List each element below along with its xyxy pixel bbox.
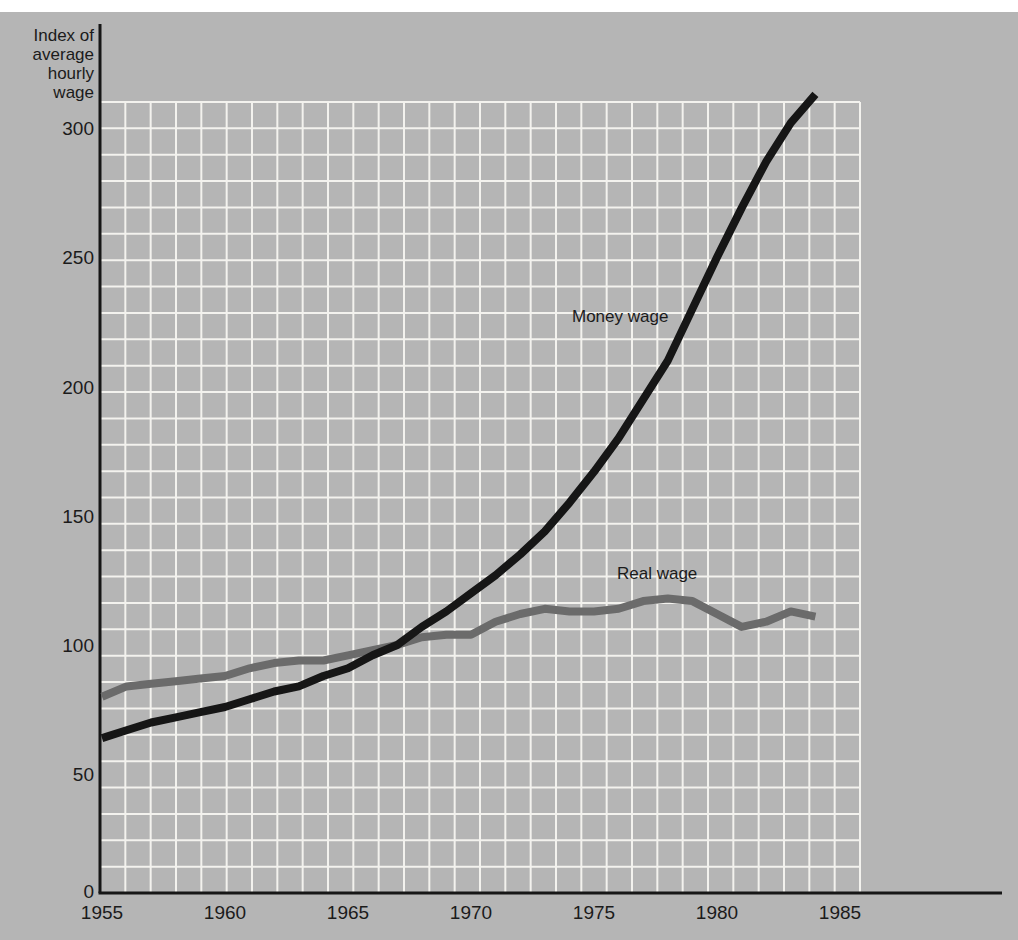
x-tick-label: 1970 xyxy=(435,902,507,922)
x-tick-label: 1975 xyxy=(558,902,630,922)
y-axis-title-line-3: hourly xyxy=(0,64,94,83)
y-axis-title-line-1: Index of xyxy=(0,26,94,45)
y-tick-label: 200 xyxy=(32,377,94,397)
money-wage-series-label: Money wage xyxy=(572,307,668,327)
y-tick-label: 300 xyxy=(32,118,94,138)
x-tick-label: 1985 xyxy=(804,902,876,922)
x-tick-label: 1965 xyxy=(312,902,384,922)
x-tick-label: 1980 xyxy=(681,902,753,922)
x-tick-label: 1955 xyxy=(66,902,138,922)
y-tick-label: 50 xyxy=(32,764,94,784)
wage-index-chart-figure: Index of average hourly wage 05010015020… xyxy=(0,0,1018,940)
y-tick-label: 100 xyxy=(32,635,94,655)
y-axis-title-line-2: average xyxy=(0,45,94,64)
y-axis-title: Index of average hourly wage xyxy=(0,26,94,102)
x-tick-label: 1960 xyxy=(189,902,261,922)
chart-canvas xyxy=(0,0,1018,940)
y-tick-label: 250 xyxy=(32,247,94,267)
y-tick-label: 150 xyxy=(32,506,94,526)
y-axis-title-line-4: wage xyxy=(0,83,94,102)
y-tick-label: 0 xyxy=(32,881,94,901)
real-wage-series-label: Real wage xyxy=(617,564,697,584)
